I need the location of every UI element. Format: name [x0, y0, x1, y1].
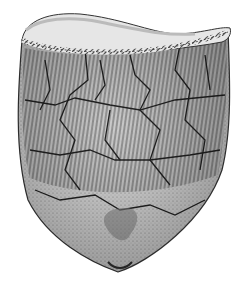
vessel-rim: [22, 14, 231, 52]
pottery-vessel-drawing: [0, 0, 243, 295]
vessel-body: [18, 30, 229, 272]
illustration-canvas: [0, 0, 243, 295]
